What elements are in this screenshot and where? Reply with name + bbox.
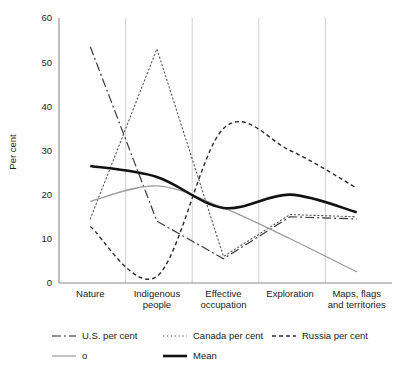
chart-axes	[59, 18, 392, 283]
category-label-line: people	[143, 299, 172, 310]
legend-label: U.S. per cent	[82, 330, 138, 341]
y-tick-label: 10	[41, 233, 52, 244]
chart-legend: U.S. per centCanada per centRussia per c…	[52, 330, 368, 361]
series-line	[90, 49, 356, 257]
y-axis-title: Per cent	[7, 134, 18, 170]
series-line	[90, 47, 356, 259]
y-tick-label: 40	[41, 101, 52, 112]
category-label-line: occupation	[201, 299, 247, 310]
category-label-line: Maps, flags	[332, 288, 381, 299]
legend-label: o	[82, 350, 87, 361]
y-tick-label: 50	[41, 57, 52, 68]
legend-label: Canada per cent	[193, 330, 264, 341]
legend-item[interactable]: Canada per cent	[163, 330, 264, 341]
category-label: Nature	[76, 288, 105, 299]
category-label: Maps, flagsand territories	[328, 288, 386, 310]
category-gridlines	[126, 18, 326, 283]
category-label-line: Exploration	[266, 288, 314, 299]
data-series-layer	[90, 47, 356, 280]
category-label: Indigenouspeople	[134, 288, 181, 310]
category-label-line: Nature	[76, 288, 105, 299]
legend-item[interactable]: U.S. per cent	[52, 330, 138, 341]
y-axis-tick-labels: 6050403020100	[41, 12, 52, 288]
y-tick-label: 0	[47, 277, 52, 288]
category-label-line: Effective	[205, 288, 241, 299]
x-axis-category-labels: NatureIndigenouspeopleEffectiveoccupatio…	[76, 288, 386, 310]
y-tick-label: 20	[41, 189, 52, 200]
line-chart: 6050403020100 Per cent NatureIndigenousp…	[0, 0, 401, 372]
category-label: Effectiveoccupation	[201, 288, 247, 310]
legend-item[interactable]: Mean	[163, 350, 217, 361]
y-tick-label: 60	[41, 12, 52, 23]
legend-item[interactable]: o	[52, 350, 87, 361]
y-tick-label: 30	[41, 145, 52, 156]
category-label: Exploration	[266, 288, 314, 299]
legend-label: Russia per cent	[302, 330, 368, 341]
category-label-line: and territories	[328, 299, 386, 310]
legend-label: Mean	[193, 350, 217, 361]
chart-container: 6050403020100 Per cent NatureIndigenousp…	[0, 0, 401, 372]
category-label-line: Indigenous	[134, 288, 181, 299]
legend-item[interactable]: Russia per cent	[272, 330, 368, 341]
